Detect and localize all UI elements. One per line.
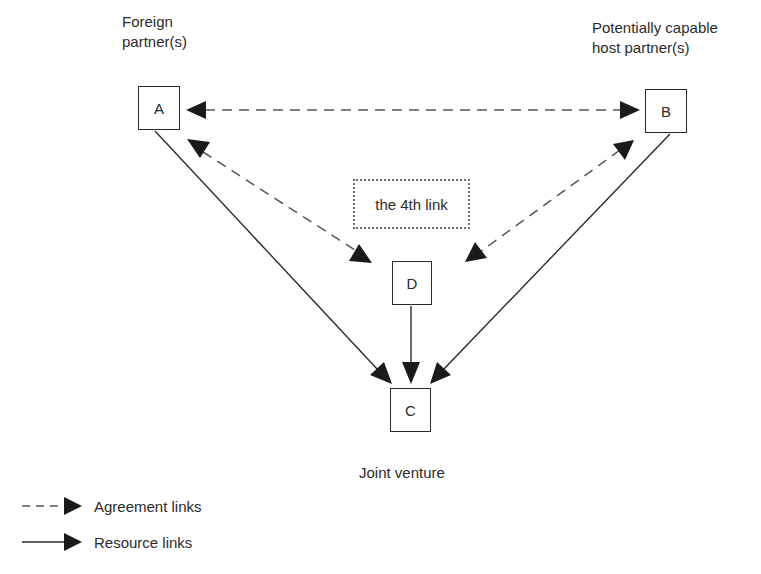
diagram-connectors [0, 0, 761, 574]
node-c: C [390, 388, 431, 432]
arrowhead-icon [402, 362, 420, 384]
node-c-label: C [405, 402, 416, 419]
resource-link-d-c [402, 306, 420, 384]
arrowhead-icon [465, 242, 487, 262]
legend-item-resource: Resource links [22, 532, 192, 552]
host-partner-label: Potentially capable host partner(s) [592, 18, 718, 58]
foreign-partner-line-2: partner(s) [122, 32, 187, 52]
dashed-arrow-icon [22, 496, 82, 516]
foreign-partner-label: Foreign partner(s) [122, 12, 187, 52]
legend-label-resource: Resource links [94, 534, 192, 551]
node-a: A [138, 86, 180, 130]
agreement-link-a-b [186, 101, 640, 119]
legend-item-agreement: Agreement links [22, 496, 202, 516]
arrowhead-icon [349, 244, 372, 263]
legend-label-agreement: Agreement links [94, 498, 202, 515]
resource-link-b-c [430, 134, 670, 384]
arrowhead-icon [186, 101, 206, 119]
fourth-link-box: the 4th link [353, 179, 470, 229]
solid-arrow-icon [22, 532, 82, 552]
host-partner-line-1: Potentially capable [592, 18, 718, 38]
host-partner-line-2: host partner(s) [592, 38, 718, 58]
node-b: B [645, 89, 687, 133]
node-b-label: B [661, 103, 671, 120]
fourth-link-label: the 4th link [375, 196, 448, 213]
joint-venture-label: Joint venture [359, 463, 445, 483]
node-a-label: A [154, 100, 164, 117]
foreign-partner-line-1: Foreign [122, 12, 187, 32]
agreement-link-b-d [465, 140, 634, 262]
agreement-link-a-d [187, 139, 372, 263]
arrowhead-icon [613, 140, 634, 160]
node-d: D [392, 261, 432, 305]
node-d-label: D [407, 275, 418, 292]
arrowhead-icon [620, 101, 640, 119]
